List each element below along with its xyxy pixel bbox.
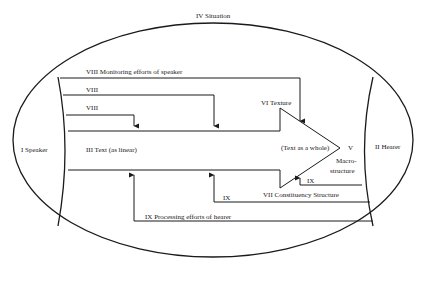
situation-ellipse	[13, 23, 413, 257]
constituency-label: VII Constituency Structure	[263, 191, 339, 199]
viii-label-2: VIII	[86, 86, 99, 94]
texture-label: VI Texture	[261, 99, 291, 107]
speaker-boundary	[58, 77, 65, 226]
hearer-label: II Hearer	[375, 143, 401, 151]
macro-label-1: Macro-	[336, 157, 357, 165]
macro-label-v: V	[348, 144, 353, 152]
hearer-boundary	[365, 77, 374, 226]
situation-label: IV Situation	[196, 12, 231, 20]
viii-arrow-3	[66, 115, 134, 126]
ix-label-3: IX	[307, 177, 314, 185]
processing-label: IX Processing efforts of hearer	[145, 213, 232, 221]
monitoring-label: VIII Monitoring efforts of speaker	[86, 68, 183, 76]
ix-label-2: IX	[223, 194, 230, 202]
text-model-diagram: IV Situation I Speaker II Hearer III Tex…	[0, 0, 427, 287]
speaker-label: I Speaker	[21, 146, 48, 154]
macro-label-2: structure	[330, 167, 355, 175]
text-whole-label: (Text as a whole)	[281, 144, 330, 152]
viii-label-3: VIII	[86, 104, 99, 112]
text-linear-label: III Text (as linear)	[86, 146, 138, 154]
